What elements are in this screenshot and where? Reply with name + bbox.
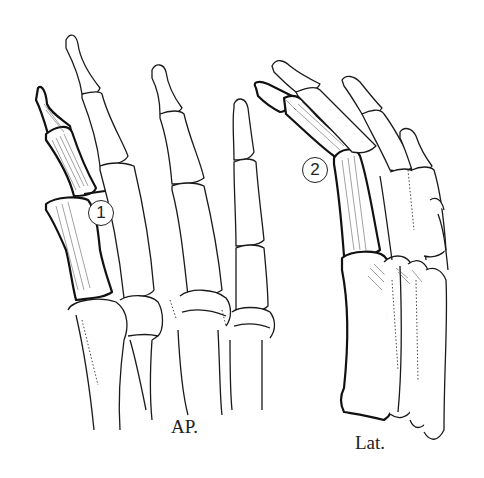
ap-view-label: AP. <box>171 416 198 438</box>
marker-2: 2 <box>302 157 328 183</box>
lat-view-illustration <box>255 61 448 440</box>
marker-2-number: 2 <box>310 160 319 180</box>
lat-view-label: Lat. <box>355 432 385 454</box>
bone-illustration <box>0 0 484 478</box>
diagram-canvas: 1 2 AP. Lat. <box>0 0 484 478</box>
ap-view-illustration <box>36 35 275 430</box>
marker-1: 1 <box>88 200 114 226</box>
marker-1-number: 1 <box>96 203 105 223</box>
